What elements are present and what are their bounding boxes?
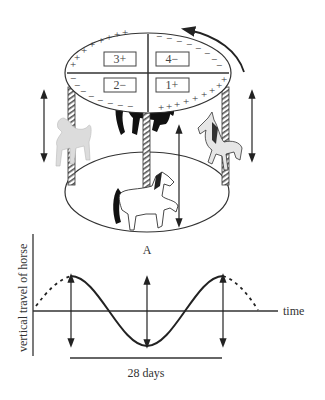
- svg-text:−: −: [127, 100, 133, 112]
- period-label: 28 days: [128, 366, 165, 380]
- svg-text:2−: 2−: [114, 78, 127, 92]
- svg-text:+: +: [98, 34, 104, 46]
- svg-text:+: +: [122, 26, 128, 38]
- svg-text:−: −: [166, 32, 172, 44]
- svg-text:+: +: [89, 38, 95, 50]
- svg-text:+: +: [192, 92, 198, 104]
- svg-text:+: +: [158, 101, 164, 113]
- svg-text:+: +: [201, 88, 207, 100]
- carousel-diagram: + + + + + + + + + + + + + + + + + − − − …: [0, 0, 325, 400]
- svg-text:+: +: [81, 44, 87, 56]
- travel-curve-dashed-end: [223, 276, 258, 310]
- svg-text:−: −: [216, 59, 222, 71]
- svg-text:−: −: [176, 35, 182, 47]
- svg-text:−: −: [107, 97, 113, 109]
- svg-text:+: +: [74, 51, 80, 63]
- quadrant-1: 1+: [156, 78, 189, 92]
- svg-text:+: +: [174, 98, 180, 110]
- x-axis-label: time: [283, 304, 304, 318]
- svg-text:4−: 4−: [166, 52, 179, 66]
- svg-text:−: −: [186, 38, 192, 50]
- horse-a-label: A: [143, 243, 152, 257]
- svg-text:−: −: [156, 30, 162, 42]
- quadrant-4: 4−: [156, 52, 189, 66]
- travel-curve-dashed-start: [36, 276, 71, 306]
- y-axis-label: vertical travel of horse: [16, 244, 30, 352]
- svg-text:3+: 3+: [114, 52, 127, 66]
- svg-text:+: +: [166, 100, 172, 112]
- svg-text:−: −: [88, 90, 94, 102]
- svg-text:−: −: [195, 42, 201, 54]
- horse-right-icon: [198, 112, 242, 170]
- svg-text:+: +: [221, 73, 227, 85]
- svg-text:+: +: [183, 95, 189, 107]
- svg-text:−: −: [97, 94, 103, 106]
- svg-text:−: −: [117, 99, 123, 111]
- svg-text:−: −: [80, 85, 86, 97]
- svg-text:1+: 1+: [166, 78, 179, 92]
- quadrant-3: 3+: [104, 52, 136, 66]
- svg-text:+: +: [114, 28, 120, 40]
- svg-text:+: +: [106, 31, 112, 43]
- svg-text:−: −: [204, 47, 210, 59]
- travel-graph: time vertical travel of horse 28 days: [16, 234, 304, 380]
- quadrant-2: 2−: [104, 78, 136, 92]
- svg-text:+: +: [209, 84, 215, 96]
